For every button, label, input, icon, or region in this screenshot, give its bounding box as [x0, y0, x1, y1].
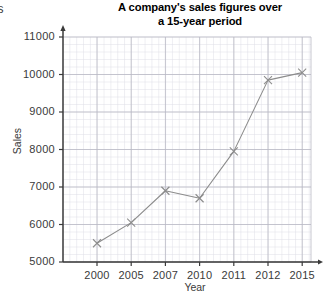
- y-tick-label: 11000: [0, 30, 55, 42]
- x-tick-label: 2015: [282, 269, 322, 281]
- y-tick-label: 9000: [0, 105, 55, 117]
- major-gridlines: [63, 37, 311, 262]
- y-tick-label: 8000: [0, 143, 55, 155]
- y-tick-label: 6000: [0, 218, 55, 230]
- y-axis-title: Sales: [11, 116, 23, 166]
- chart-figure: /s A company's sales figures over a 15-y…: [0, 0, 327, 296]
- y-tick-label: 10000: [0, 68, 55, 80]
- y-tick-label: 5000: [0, 255, 55, 267]
- x-axis-title: Year: [60, 281, 327, 293]
- axis-lines: [60, 25, 323, 265]
- y-tick-label: 7000: [0, 180, 55, 192]
- axis-ticks: [59, 37, 302, 266]
